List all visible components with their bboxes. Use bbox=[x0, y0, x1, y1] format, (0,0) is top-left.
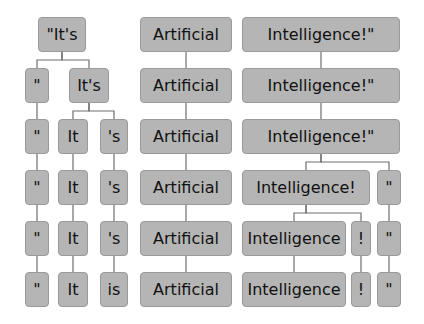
token-node: It bbox=[58, 170, 88, 205]
token-node: Intelligence!" bbox=[242, 119, 400, 154]
token-node: Intelligence bbox=[242, 221, 346, 256]
token-node: Artificial bbox=[140, 68, 232, 103]
token-node: Artificial bbox=[140, 221, 232, 256]
token-node: It's bbox=[69, 68, 109, 103]
tree-edge bbox=[89, 103, 114, 119]
token-node: " bbox=[25, 119, 49, 154]
token-node: "It's bbox=[38, 17, 86, 52]
token-node: " bbox=[25, 68, 49, 103]
tree-edge bbox=[306, 154, 321, 170]
token-node: Intelligence!" bbox=[242, 17, 400, 52]
tree-edge bbox=[37, 52, 62, 68]
token-tree-diagram: "It'sArtificialIntelligence!""It'sArtifi… bbox=[0, 0, 424, 324]
tree-edge bbox=[306, 205, 361, 221]
token-node: 's bbox=[100, 119, 128, 154]
token-node: Artificial bbox=[140, 272, 232, 307]
token-node: " bbox=[25, 272, 49, 307]
token-node: Artificial bbox=[140, 170, 232, 205]
token-node: ! bbox=[351, 272, 371, 307]
token-node: Intelligence bbox=[242, 272, 346, 307]
token-node: " bbox=[377, 272, 401, 307]
tree-edge bbox=[73, 103, 89, 119]
token-node: ! bbox=[351, 221, 371, 256]
token-node: Intelligence! bbox=[242, 170, 370, 205]
token-node: Artificial bbox=[140, 119, 232, 154]
token-node: " bbox=[377, 170, 401, 205]
token-node: Artificial bbox=[140, 17, 232, 52]
token-node: It bbox=[58, 119, 88, 154]
tree-edge bbox=[294, 205, 306, 221]
token-node: 's bbox=[100, 170, 128, 205]
token-node: 's bbox=[100, 221, 128, 256]
token-node: Intelligence!" bbox=[242, 68, 400, 103]
token-node: It bbox=[58, 221, 88, 256]
token-node: " bbox=[25, 221, 49, 256]
token-node: " bbox=[377, 221, 401, 256]
token-node: It bbox=[58, 272, 88, 307]
tree-edge bbox=[62, 52, 89, 68]
token-node: " bbox=[25, 170, 49, 205]
tree-edge bbox=[321, 154, 389, 170]
token-node: is bbox=[100, 272, 128, 307]
